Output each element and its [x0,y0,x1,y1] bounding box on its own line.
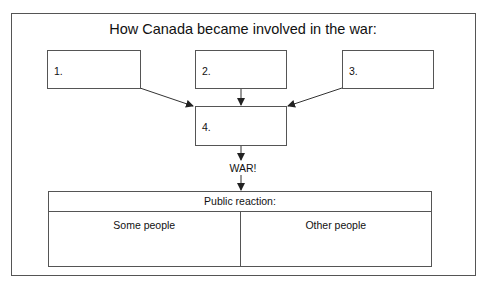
reaction-column-other-people: Other people [240,212,432,267]
cause-box-4: 4. [195,106,287,146]
public-reaction-table: Public reaction: Some people Other peopl… [48,191,432,267]
war-label: WAR! [0,162,486,174]
cause-box-3: 3. [342,50,434,89]
arrow-1-to-4 [140,88,193,106]
arrow-3-to-4 [288,88,342,106]
cause-box-2: 2. [195,50,287,89]
cause-box-label: 1. [54,65,63,77]
public-reaction-header: Public reaction: [49,192,431,212]
reaction-column-some-people: Some people [49,212,240,267]
cause-box-label: 4. [202,121,211,133]
cause-box-label: 3. [349,65,358,77]
cause-box-label: 2. [202,65,211,77]
cause-box-1: 1. [47,50,141,89]
